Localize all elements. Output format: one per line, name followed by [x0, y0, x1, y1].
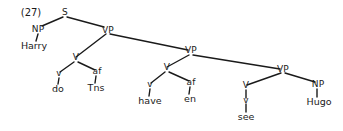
node-af-tns: af: [92, 66, 101, 76]
terminal-have: have: [138, 96, 161, 106]
terminal-tns: Tns: [88, 83, 105, 93]
terminal-see: see: [238, 112, 255, 122]
node-v-lower-see: v: [243, 95, 249, 105]
example-number: (27): [21, 7, 42, 18]
branch-s-vp: [67, 17, 104, 27]
terminal-do: do: [52, 84, 64, 94]
node-np-subject: NP: [32, 24, 45, 34]
node-np-object: NP: [312, 79, 325, 89]
node-v-do: V: [73, 52, 79, 62]
node-v-see: V: [243, 80, 249, 90]
branch-vp-v-do: [76, 34, 106, 57]
node-af-en: af: [186, 77, 195, 87]
branch-s-np: [42, 17, 63, 26]
branch-vp-low-v-see: [247, 73, 281, 85]
tree-branch-lines: [0, 0, 343, 131]
node-s: S: [62, 7, 68, 17]
branch-vp-low-np: [285, 73, 315, 82]
node-vp-top: VP: [102, 25, 114, 35]
terminal-harry: Harry: [21, 41, 47, 51]
branch-vp-mid-vp-low: [193, 55, 280, 69]
branch-vp-vp-mid: [110, 34, 188, 50]
terminal-en: en: [184, 94, 196, 104]
syntax-tree-figure: (27) S NP VP V v af VP V v af VP V v NP …: [0, 0, 343, 131]
node-v-lower-do: v: [56, 68, 62, 78]
terminal-hugo: Hugo: [306, 97, 331, 107]
node-vp-mid: VP: [185, 45, 197, 55]
branch-vp-mid-v-have: [167, 55, 189, 67]
node-v-have: V: [164, 62, 170, 72]
node-vp-low: VP: [277, 64, 289, 74]
node-v-lower-have: v: [147, 79, 153, 89]
